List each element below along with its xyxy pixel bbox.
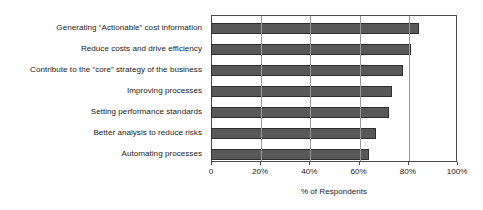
gridline-40: [310, 16, 311, 161]
category-label: Reduce costs and drive efficiency: [0, 44, 202, 54]
bar: [211, 86, 392, 97]
x-tick-20: [260, 162, 261, 165]
category-label: Contribute to the “core” strategy of the…: [0, 65, 202, 75]
x-tick-label: 80%: [400, 166, 416, 177]
bar: [211, 128, 376, 139]
plot-area: [211, 15, 457, 162]
gridline-20: [261, 16, 262, 161]
x-tick-label: 40%: [301, 166, 317, 177]
bar: [211, 149, 369, 160]
category-label: Improving processes: [0, 86, 202, 96]
bar: [211, 107, 389, 118]
category-label: Setting performance standards: [0, 107, 202, 117]
x-tick-0: [211, 162, 212, 165]
x-tick-60: [359, 162, 360, 165]
bar: [211, 65, 403, 76]
category-label: Generating “Actionable” cost information: [0, 23, 202, 33]
x-tick-label: 0: [209, 166, 214, 177]
x-tick-100: [457, 162, 458, 165]
x-tick-80: [408, 162, 409, 165]
category-label: Automating processes: [0, 149, 202, 159]
gridline-80: [409, 16, 410, 161]
x-tick-label: 100%: [447, 166, 468, 177]
bar: [211, 23, 419, 34]
bar: [211, 44, 411, 55]
category-label: Better analysis to reduce risks: [0, 128, 202, 138]
gridline-60: [360, 16, 361, 161]
bar-chart: Generating “Actionable” cost information…: [0, 0, 483, 210]
x-axis-tick-labels: 020%40%60%80%100%: [0, 166, 483, 178]
x-tick-label: 60%: [350, 166, 366, 177]
category-axis-labels: Generating “Actionable” cost information…: [0, 15, 206, 162]
x-tick-label: 20%: [252, 166, 268, 177]
x-axis-title: % of Respondents: [211, 186, 457, 197]
x-tick-40: [309, 162, 310, 165]
